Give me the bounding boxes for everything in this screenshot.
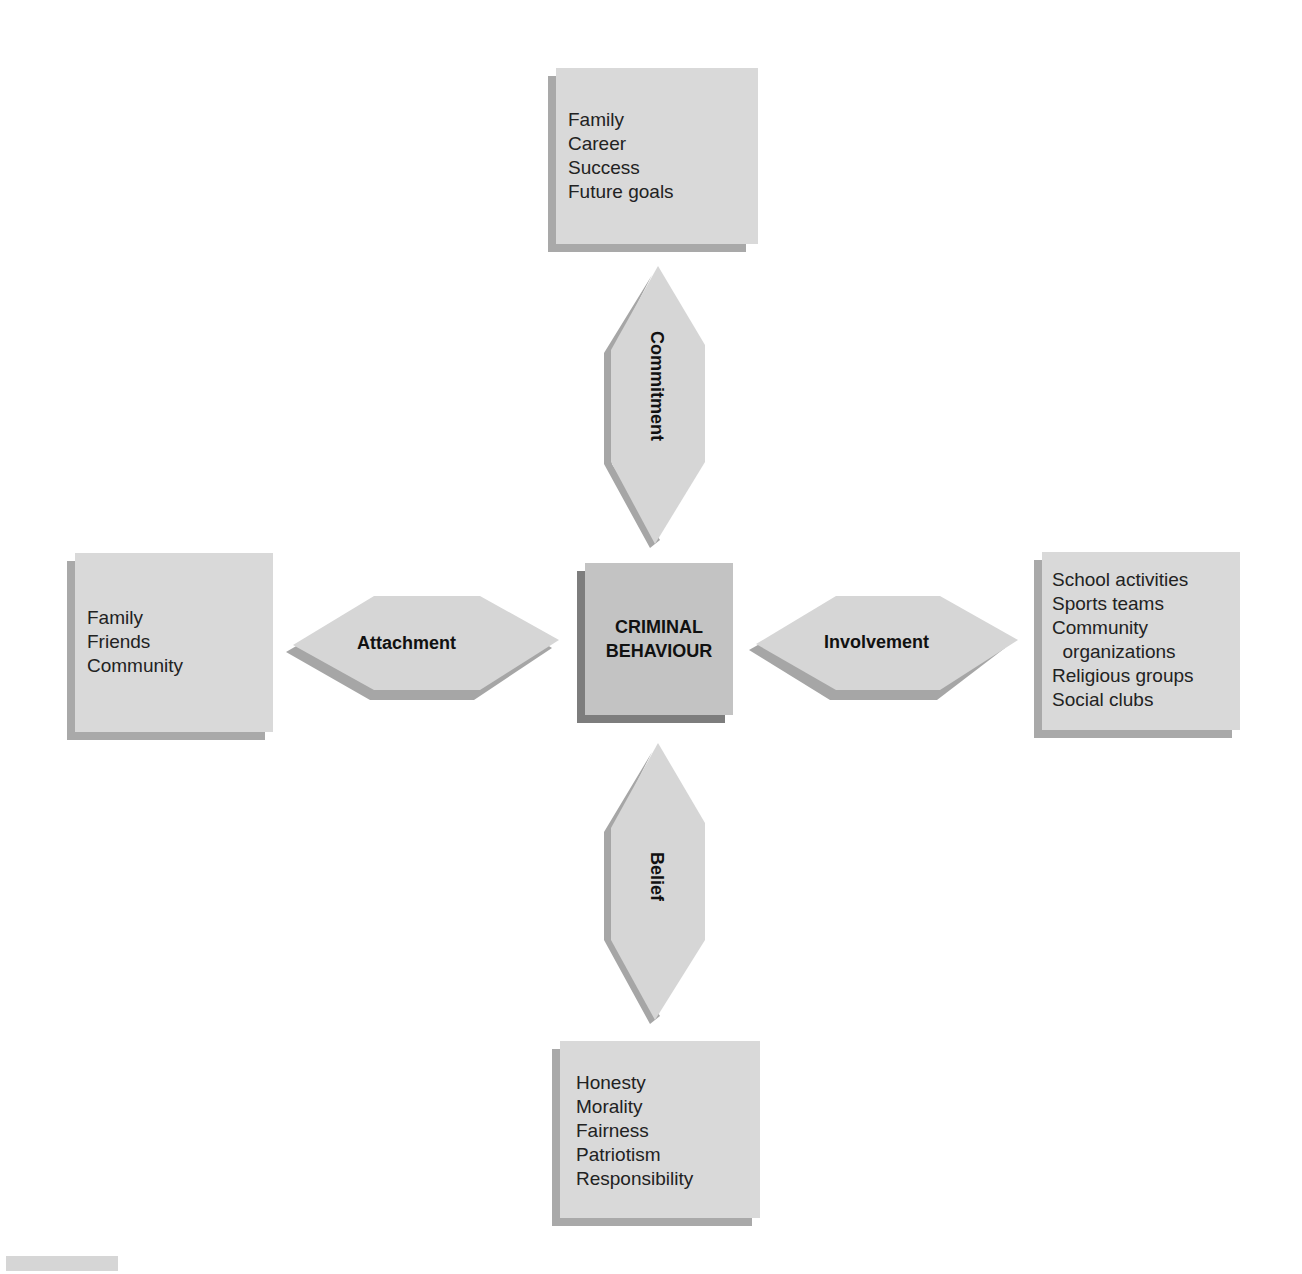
belief-label: Belief	[646, 852, 667, 901]
footer-bar	[6, 1256, 118, 1271]
attachment-label: Attachment	[357, 633, 456, 654]
commitment-label: Commitment	[646, 331, 667, 441]
involvement-label: Involvement	[824, 632, 929, 653]
connector-shapes	[0, 0, 1302, 1274]
